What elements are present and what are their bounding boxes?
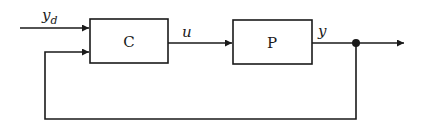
controller-label: C: [123, 33, 134, 51]
block-diagram: yd C u P y: [0, 0, 422, 127]
reference-signal-label: yd: [41, 6, 58, 27]
output-signal-label: y: [317, 22, 327, 40]
control-signal-label: u: [182, 23, 192, 41]
plant-label: P: [267, 34, 277, 52]
